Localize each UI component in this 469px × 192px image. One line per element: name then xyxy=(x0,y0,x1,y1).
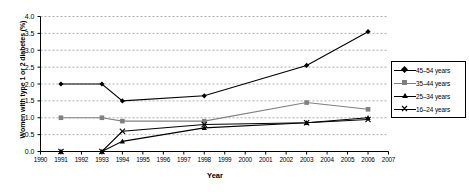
line-chart: Women with type 1 or 2 diabetes (%) Year… xyxy=(0,0,469,192)
series-line xyxy=(61,32,368,101)
legend-swatch-diamond-icon xyxy=(394,65,416,76)
data-point-marker xyxy=(58,81,63,86)
legend-swatch-square-icon xyxy=(394,78,416,89)
series-line xyxy=(61,119,368,151)
legend-item: 35–44 years xyxy=(392,77,465,90)
legend-label: 16–24 years xyxy=(416,106,450,113)
data-point-marker xyxy=(100,115,105,120)
legend-label: 45–54 years xyxy=(416,67,450,74)
series-line xyxy=(61,103,368,122)
legend-item: 45–54 years xyxy=(392,64,465,77)
legend-item: 16–24 years xyxy=(392,103,465,116)
legend-item: 25–34 years xyxy=(392,90,465,103)
data-point-marker xyxy=(304,100,309,105)
data-point-marker xyxy=(202,93,207,98)
legend-swatch-cross-icon xyxy=(394,104,416,115)
legend-swatch-triangle-icon xyxy=(394,91,416,102)
data-point-marker xyxy=(366,107,371,112)
legend-label: 35–44 years xyxy=(416,80,450,87)
chart-legend: 45–54 years 35–44 years 25–34 years xyxy=(391,61,466,118)
data-point-marker xyxy=(120,119,125,124)
data-point-marker xyxy=(59,115,64,120)
legend-label: 25–34 years xyxy=(416,93,450,100)
